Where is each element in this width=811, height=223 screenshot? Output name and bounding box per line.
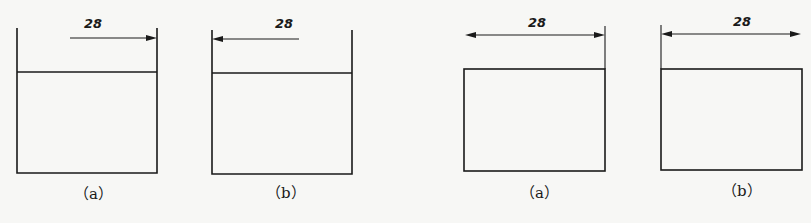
figure-2: 28 （b） [212,16,352,202]
figure-1: 28 （a） [17,16,157,203]
figure-caption: （b） [266,184,306,202]
arrowhead-left-icon [661,31,672,37]
rectangle [661,69,802,170]
figure-caption: （a） [74,185,113,203]
arrowhead-left-icon [212,36,223,42]
dimension-label: 28 [84,16,102,31]
dimension-label: 28 [528,15,546,30]
dimension-label: 28 [275,16,293,31]
figure-4: 28 （b） [661,14,802,200]
container-outline [17,28,157,173]
rectangle [464,69,605,171]
dimension-label: 28 [733,14,751,29]
arrowhead-left-icon [465,32,476,38]
figure-caption: （b） [722,182,762,200]
dimension-diagram: 28 （a） 28 （b） 28 （a） 28 （b） [0,0,811,223]
arrowhead-right-icon [594,32,605,38]
arrowhead-right-icon [790,31,801,37]
container-outline [212,30,352,174]
figure-3: 28 （a） [464,15,605,202]
arrowhead-right-icon [146,35,157,41]
figure-caption: （a） [520,184,559,202]
